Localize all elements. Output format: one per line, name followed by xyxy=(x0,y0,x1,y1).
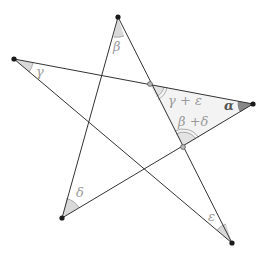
angle-epsilon-wedge xyxy=(217,224,232,243)
vertex-left xyxy=(11,56,16,61)
label-alpha: α xyxy=(224,98,234,113)
vertex-right xyxy=(250,101,255,106)
line-left-to-bottom-right xyxy=(14,59,232,243)
pentagram-diagram: β γ δ ε γ + ε β +δ α xyxy=(0,0,267,257)
vertex-bottom-left xyxy=(59,215,64,220)
line-left-to-right xyxy=(14,59,253,104)
label-gamma: γ xyxy=(36,64,44,79)
line-bottom-left-to-right xyxy=(62,104,253,218)
line-top-to-bottom-left xyxy=(62,17,118,218)
label-beta-plus-delta: β +δ xyxy=(177,114,209,129)
label-delta: δ xyxy=(76,185,84,200)
intersection-upper xyxy=(148,82,153,87)
label-epsilon: ε xyxy=(208,209,215,224)
vertex-bottom-right xyxy=(229,240,234,245)
label-gamma-plus-epsilon: γ + ε xyxy=(168,93,202,108)
vertex-top xyxy=(115,14,120,19)
intersection-lower xyxy=(181,145,186,150)
label-beta: β xyxy=(112,39,121,54)
